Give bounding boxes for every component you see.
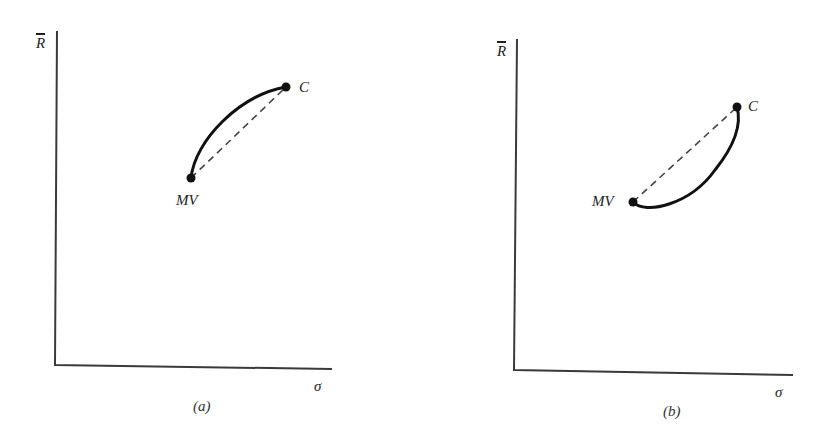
panel-a-y-axis-label: R — [36, 36, 45, 51]
panel-b-label-mv: MV — [592, 194, 614, 209]
panel-b-label-c: C — [748, 99, 758, 114]
panel-b-y-axis-label: R — [497, 44, 506, 59]
panel-b-caption: (b) — [663, 404, 681, 419]
panel-a-caption: (a) — [193, 399, 211, 414]
figure-two-panels: R C MV σ (a) R C MV σ (b) — [0, 0, 826, 444]
panel-a-dashed-chord — [191, 87, 286, 178]
panel-a-x-axis-label: σ — [314, 379, 321, 394]
overbar — [497, 41, 506, 43]
panel-b — [514, 39, 793, 375]
panel-b-dashed-chord — [633, 107, 737, 202]
panel-b-point-c — [733, 103, 742, 112]
panel-a-label-c: C — [299, 80, 309, 95]
panel-b-point-mv — [629, 198, 638, 207]
figure-canvas — [0, 0, 826, 444]
panel-b-y-axis-text: R — [497, 43, 506, 59]
panel-a-label-mv: MV — [176, 193, 198, 208]
overbar — [36, 33, 45, 35]
panel-a-y-axis-text: R — [36, 35, 45, 51]
panel-a-point-mv — [187, 174, 196, 183]
panel-a-point-c — [282, 83, 291, 92]
panel-b-x-axis-label: σ — [775, 385, 782, 400]
panel-b-solid-curve — [633, 107, 739, 207]
